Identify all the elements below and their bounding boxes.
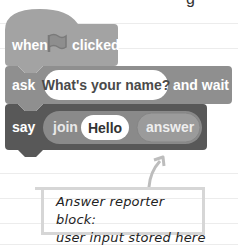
hat-clicked-label: clicked — [72, 37, 119, 53]
hat-when-label: when — [12, 37, 48, 53]
answer-reporter-label[interactable]: answer — [146, 119, 194, 135]
ask-question-input[interactable]: What's your name? — [44, 70, 168, 100]
ask-label: ask — [12, 77, 35, 93]
annotation-arrow — [149, 161, 160, 187]
say-label: say — [12, 119, 35, 135]
and-wait-label: and wait — [173, 77, 229, 93]
annotation-line-1: Answer reporter block: — [56, 193, 206, 229]
join-label: join — [53, 119, 78, 135]
join-first-input[interactable]: Hello — [81, 115, 129, 140]
annotation-line-2: user input stored here — [56, 229, 206, 247]
annotation-text: Answer reporter block: user input stored… — [56, 193, 206, 247]
